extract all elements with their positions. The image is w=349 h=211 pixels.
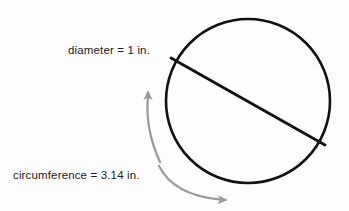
circumference-arrow-lower	[159, 166, 219, 199]
diameter-label: diameter = 1 in.	[68, 44, 150, 56]
circumference-arrow-upper	[148, 97, 161, 162]
circumference-label: circumference = 3.14 in.	[13, 169, 140, 181]
diameter-line	[171, 58, 325, 145]
diagram-canvas: diameter = 1 in. circumference = 3.14 in…	[0, 0, 349, 211]
